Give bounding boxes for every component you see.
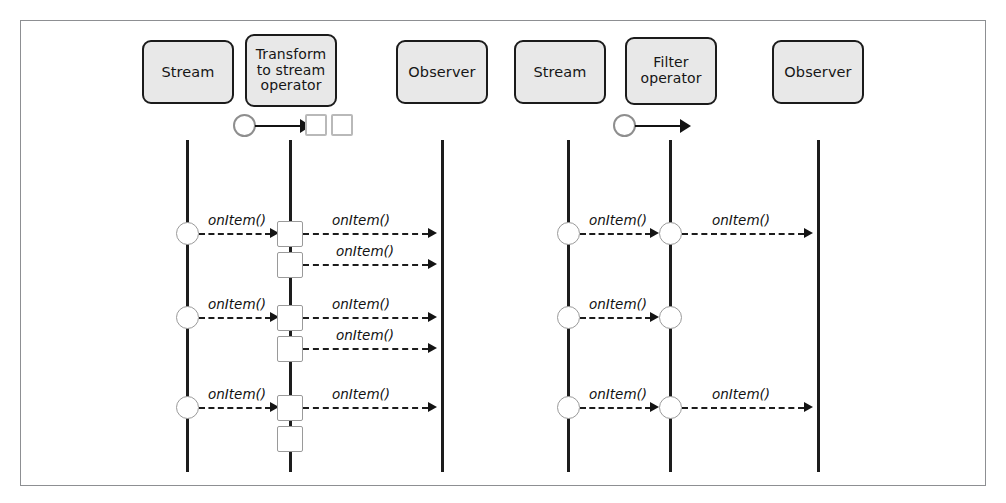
message-label: onItem() (589, 212, 647, 228)
message-label: onItem() (589, 386, 647, 402)
operator-item-circle (659, 396, 682, 419)
message-arrow-head (804, 402, 813, 412)
message-label: onItem() (332, 386, 390, 402)
message-arrow-operator-to-observer (303, 317, 428, 319)
message-arrow-head (650, 402, 659, 412)
message-arrow-stream-to-operator (580, 317, 651, 319)
operator-item-circle (659, 306, 682, 329)
operator-icon-output-square-2 (331, 114, 353, 136)
message-label: onItem() (336, 327, 394, 343)
participant-label-line1: Transform (256, 47, 327, 63)
message-arrow-head (428, 312, 437, 322)
operator-icon-input-circle (613, 114, 636, 137)
message-arrow-stream-to-operator (199, 407, 271, 409)
participant-box-transform-operator: Transform to stream operator (245, 34, 337, 107)
message-label: onItem() (712, 386, 770, 402)
participant-box-stream-left: Stream (142, 40, 234, 104)
message-label: onItem() (332, 212, 390, 228)
message-arrow-head (428, 228, 437, 238)
operator-icon-output-square-1 (305, 114, 327, 136)
message-arrow-stream-to-operator (199, 233, 271, 235)
stream-item-circle (176, 306, 199, 329)
operator-activation-square (277, 221, 303, 247)
operator-icon-arrow-line (635, 125, 683, 128)
operator-activation-square (277, 395, 303, 421)
stream-item-circle (176, 396, 199, 419)
participant-box-observer-left: Observer (396, 40, 488, 104)
operator-icon-input-circle (233, 114, 256, 137)
message-arrow-operator-to-observer (303, 233, 428, 235)
message-arrow-stream-to-operator (199, 317, 271, 319)
operator-activation-square (277, 252, 303, 278)
participant-label-line2: operator (640, 71, 701, 87)
participant-box-stream-right: Stream (514, 40, 606, 104)
message-arrow-stream-to-operator (580, 233, 651, 235)
operator-activation-square (277, 305, 303, 331)
participant-label: Stream (533, 64, 586, 80)
stream-item-circle (176, 222, 199, 245)
stream-item-circle (557, 396, 580, 419)
participant-box-filter-operator: Filter operator (625, 37, 717, 105)
operator-activation-square (277, 336, 303, 362)
message-arrow-operator-to-observer (682, 407, 804, 409)
message-arrow-operator-to-observer (303, 348, 428, 350)
message-label: onItem() (332, 296, 390, 312)
message-arrow-head (428, 402, 437, 412)
message-label: onItem() (208, 386, 266, 402)
lifeline-observer-left (441, 140, 444, 472)
diagram-canvas: Stream Transform to stream operator Obse… (0, 0, 1006, 503)
stream-item-circle (557, 306, 580, 329)
stream-item-circle (557, 222, 580, 245)
message-label: onItem() (208, 212, 266, 228)
message-label: onItem() (589, 296, 647, 312)
participant-label: Observer (408, 64, 475, 80)
message-arrow-head (804, 228, 813, 238)
participant-label: Stream (161, 64, 214, 80)
message-arrow-operator-to-observer (303, 407, 428, 409)
operator-activation-square (277, 426, 303, 452)
lifeline-observer-right (817, 140, 820, 472)
message-arrow-operator-to-observer (682, 233, 804, 235)
participant-label-line2: to stream (257, 63, 325, 79)
operator-icon-arrow-line (255, 125, 303, 128)
message-arrow-operator-to-observer (303, 264, 428, 266)
participant-label-line3: operator (260, 78, 321, 94)
message-arrow-head (428, 343, 437, 353)
operator-item-circle (659, 222, 682, 245)
message-label: onItem() (208, 296, 266, 312)
participant-box-observer-right: Observer (772, 40, 864, 104)
operator-icon-arrow-head (680, 119, 691, 133)
message-arrow-stream-to-operator (580, 407, 651, 409)
message-label: onItem() (712, 212, 770, 228)
participant-label-line1: Filter (653, 55, 688, 71)
message-arrow-head (650, 312, 659, 322)
message-arrow-head (650, 228, 659, 238)
message-arrow-head (428, 259, 437, 269)
participant-label: Observer (784, 64, 851, 80)
message-label: onItem() (336, 243, 394, 259)
